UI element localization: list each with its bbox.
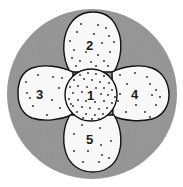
region-2: 2 xyxy=(64,12,121,72)
region-label-4: 4 xyxy=(131,87,139,102)
region-4: 4 xyxy=(112,66,169,121)
region-label-2: 2 xyxy=(86,38,93,53)
region-label-1: 1 xyxy=(87,88,94,103)
region-1: 1 xyxy=(65,69,117,121)
region-5: 5 xyxy=(64,115,121,172)
region-label-3: 3 xyxy=(36,87,43,102)
region-label-5: 5 xyxy=(86,132,93,147)
flower-diagram: 2 3 4 5 xyxy=(0,0,183,187)
